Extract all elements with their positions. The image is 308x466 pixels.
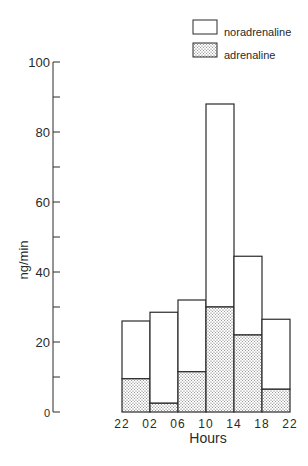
bar-segment-noradrenaline xyxy=(178,300,206,372)
y-tick-label: 60 xyxy=(36,195,50,210)
x-tick-label: 06 xyxy=(170,417,185,431)
x-axis-label: Hours xyxy=(189,430,226,446)
legend-item-adrenaline: adrenaline xyxy=(193,43,275,61)
chart: noradrenaline adrenaline 020406080100 ng… xyxy=(0,0,308,466)
legend-item-noradrenaline: noradrenaline xyxy=(193,20,291,38)
legend: noradrenaline adrenaline xyxy=(193,20,291,61)
bar-segment-adrenaline xyxy=(262,389,290,412)
bar-02-06 xyxy=(150,312,178,412)
bar-06-10 xyxy=(178,300,206,412)
y-tick-label: 20 xyxy=(36,335,50,350)
legend-label: noradrenaline xyxy=(224,26,291,38)
bar-segment-adrenaline xyxy=(234,335,262,412)
y-axis: 020406080100 xyxy=(28,55,60,419)
x-tick-label: 14 xyxy=(226,417,241,431)
y-tick-label: 40 xyxy=(36,265,50,280)
bar-segment-noradrenaline xyxy=(234,256,262,335)
bar-segment-noradrenaline xyxy=(262,319,290,389)
bar-segment-noradrenaline xyxy=(122,321,150,379)
bar-segment-noradrenaline xyxy=(150,312,178,403)
x-tick-label: 02 xyxy=(142,417,157,431)
bar-14-18 xyxy=(234,256,262,412)
bar-segment-adrenaline xyxy=(122,379,150,412)
bar-22-02 xyxy=(122,321,150,412)
x-tick-label: 22 xyxy=(114,417,129,431)
bar-segment-noradrenaline xyxy=(206,104,234,307)
bar-10-14 xyxy=(206,104,234,412)
legend-label: adrenaline xyxy=(224,49,275,61)
bar-segment-adrenaline xyxy=(178,372,206,412)
bar-segment-adrenaline xyxy=(150,403,178,412)
x-tick-label: 10 xyxy=(198,417,213,431)
legend-swatch-stippled xyxy=(193,43,217,57)
y-tick-label: 80 xyxy=(36,125,50,140)
y-tick-label: 0 xyxy=(44,407,50,419)
bars xyxy=(122,104,290,412)
x-tick-label: 22 xyxy=(282,417,297,431)
bar-18-22 xyxy=(262,319,290,412)
bar-segment-adrenaline xyxy=(206,307,234,412)
x-tick-label: 18 xyxy=(254,417,269,431)
x-tick-labels: 22020610141822 xyxy=(114,417,297,431)
legend-swatch-open xyxy=(193,20,217,34)
y-axis-label: ng/min xyxy=(16,240,31,279)
y-tick-label: 100 xyxy=(28,55,50,70)
